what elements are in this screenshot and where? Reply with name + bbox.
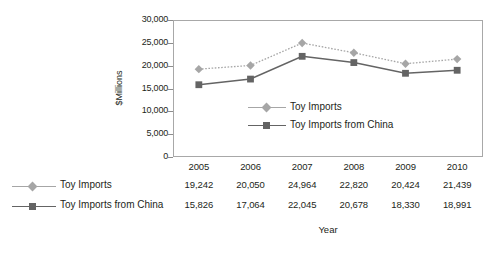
table-key-diamond-icon (12, 179, 56, 193)
data-point-diamond-icon (350, 49, 358, 57)
x-tick-label: 2006 (225, 161, 277, 173)
x-tick-label: 2010 (431, 161, 483, 173)
legend-label-toy-imports: Toy Imports (286, 101, 342, 113)
table-row-label-toy-imports-china: Toy Imports from China (60, 198, 163, 212)
chart-data-table: Toy Imports 19,24220,05024,96422,82020,4… (0, 176, 504, 222)
x-tick-label: 2009 (380, 161, 432, 173)
table-cell-value: 17,064 (225, 198, 277, 212)
table-cell-value: 20,050 (225, 178, 277, 192)
table-cell-value: 15,826 (173, 198, 225, 212)
y-tick-label: 20,000 (120, 61, 168, 70)
table-cell-value: 22,045 (276, 198, 328, 212)
x-axis-labels: 200520062007200820092010 (173, 161, 483, 175)
data-point-square-icon (454, 67, 461, 74)
table-cell-value: 22,820 (328, 178, 380, 192)
table-cell-value: 24,964 (276, 178, 328, 192)
data-point-square-icon (299, 53, 306, 60)
legend-item-toy-imports: Toy Imports (248, 98, 448, 116)
legend-key-diamond-icon (248, 100, 286, 114)
series-line (199, 43, 457, 69)
y-tick-label: 10,000 (120, 106, 168, 115)
table-row: Toy Imports from China 15,82617,06422,04… (0, 196, 504, 216)
x-tick-label: 2007 (276, 161, 328, 173)
table-cell-value: 18,330 (380, 198, 432, 212)
x-tick-label: 2005 (173, 161, 225, 173)
plot-series-layer (173, 20, 483, 157)
table-row-label-toy-imports: Toy Imports (60, 178, 112, 192)
data-point-diamond-icon (401, 60, 409, 68)
table-key-square-icon (12, 199, 56, 213)
x-axis-title: Year (173, 224, 483, 236)
table-cell-value: 19,242 (173, 178, 225, 192)
data-point-square-icon (402, 70, 409, 77)
table-row-values-toy-imports: 19,24220,05024,96422,82020,42421,439 (173, 178, 483, 192)
y-tick-label: 0 (120, 152, 168, 161)
data-point-square-icon (247, 76, 254, 83)
y-tick-label: 25,000 (120, 38, 168, 47)
chart-figure: $Millions 30,00025,00020,00015,00010,000… (0, 0, 504, 253)
data-point-diamond-icon (453, 55, 461, 63)
y-tick-label: 30,000 (120, 15, 168, 24)
data-point-diamond-icon (195, 65, 203, 73)
table-row: Toy Imports 19,24220,05024,96422,82020,4… (0, 176, 504, 196)
table-cell-value: 20,424 (380, 178, 432, 192)
chart-legend: Toy Imports Toy Imports from China (248, 98, 448, 134)
y-tick-label: 15,000 (120, 84, 168, 93)
table-cell-value: 21,439 (431, 178, 483, 192)
table-cell-value: 20,678 (328, 198, 380, 212)
table-row-values-toy-imports-china: 15,82617,06422,04520,67818,33018,991 (173, 198, 483, 212)
y-axis-labels: 30,00025,00020,00015,00010,0005,0000 (120, 0, 168, 177)
legend-label-toy-imports-china: Toy Imports from China (286, 119, 393, 131)
data-point-diamond-icon (246, 61, 254, 69)
x-tick-label: 2008 (328, 161, 380, 173)
y-tick-mark (168, 157, 173, 158)
legend-key-square-icon (248, 118, 286, 132)
legend-item-toy-imports-china: Toy Imports from China (248, 116, 448, 134)
y-tick-label: 5,000 (120, 129, 168, 138)
data-point-square-icon (350, 59, 357, 66)
data-point-diamond-icon (298, 39, 306, 47)
table-cell-value: 18,991 (431, 198, 483, 212)
series-line (199, 56, 457, 84)
data-point-square-icon (195, 81, 202, 88)
